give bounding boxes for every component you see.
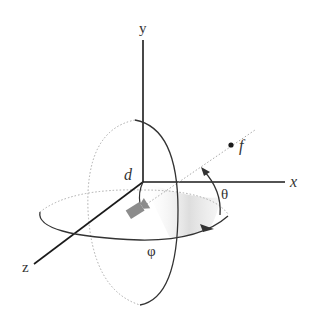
camera-icon	[125, 198, 150, 220]
focus-point	[228, 142, 233, 147]
camera-orbit-diagram: y x z d f θ φ	[0, 0, 326, 318]
elevation-arrowhead	[201, 167, 210, 176]
z-axis-label: z	[22, 259, 29, 275]
y-axis-label: y	[139, 20, 147, 36]
elevation-label: θ	[221, 186, 228, 202]
z-axis	[34, 182, 143, 264]
focus-label: f	[239, 137, 246, 155]
x-axis-label: x	[289, 173, 297, 190]
distance-label: d	[124, 166, 133, 183]
azimuth-label: φ	[147, 243, 156, 259]
